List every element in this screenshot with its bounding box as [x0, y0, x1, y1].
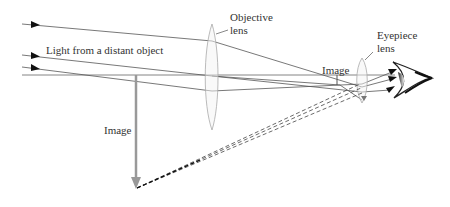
eyepiece-lens-label-line2: lens: [377, 42, 395, 54]
objective-lens-label-line1: Objective: [230, 11, 273, 23]
virtual-image-label: Image: [104, 124, 131, 136]
light-source-label: Light from a distant object: [46, 44, 163, 56]
incoming-rays: [22, 24, 212, 91]
dashed-virtual-rays: [137, 84, 362, 188]
objective-lens: [205, 24, 218, 130]
eye-ray-arrow-icons: [386, 69, 397, 93]
eyepiece-leader-line: [365, 52, 373, 60]
eyepiece-lens-label-line1: Eyepiece: [377, 29, 417, 41]
ray-arrow-icons: [31, 21, 40, 71]
dashed-virtual-ray-bold: [137, 160, 200, 188]
objective-leader-line: [216, 30, 228, 34]
objective-lens-label-line2: lens: [230, 24, 248, 36]
eye-icon: [393, 62, 432, 98]
real-image-label: Image: [322, 64, 349, 76]
